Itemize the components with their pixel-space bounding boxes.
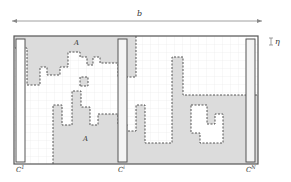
width-label: b	[137, 9, 142, 18]
region-island	[80, 77, 88, 86]
column-cn	[246, 39, 255, 162]
column-label-cn: CN	[246, 164, 256, 174]
column-label-ci: Ci	[118, 164, 125, 174]
eta-label: η	[275, 37, 280, 46]
eta-marker	[269, 38, 273, 45]
region-label-bottom: A	[82, 135, 88, 143]
diagram-canvas: b A A η C1 Ci CN	[0, 0, 291, 182]
column-label-c1: C1	[16, 164, 25, 174]
region-label-top: A	[73, 39, 79, 47]
column-c1	[16, 39, 25, 162]
width-arrow	[12, 19, 262, 23]
column-ci	[118, 39, 127, 162]
